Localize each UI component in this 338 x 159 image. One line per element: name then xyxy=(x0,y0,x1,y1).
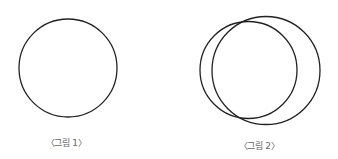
circle-left xyxy=(200,22,297,119)
figure-2-caption: 〈그림 2〉 xyxy=(239,139,280,152)
figure-1-caption: 〈그림 1〉 xyxy=(46,136,87,149)
figure-1 xyxy=(19,19,117,117)
figure-2 xyxy=(200,17,320,125)
circle-right xyxy=(212,17,320,125)
circle xyxy=(19,19,117,117)
